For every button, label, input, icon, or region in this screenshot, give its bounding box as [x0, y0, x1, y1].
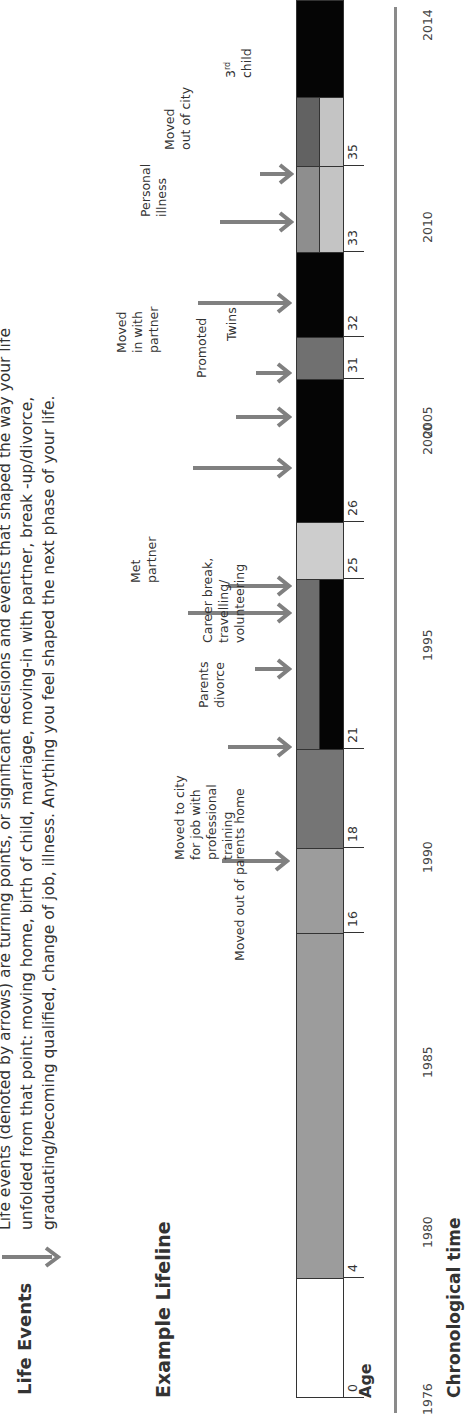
event-label-line: Promoted [194, 318, 210, 378]
event-label-line: out of city [178, 87, 194, 150]
event-arrow-head-icon [278, 163, 294, 185]
intro-text: Life events (denoted by arrows) are turn… [0, 330, 60, 1230]
event-arrow-shaft [193, 466, 286, 470]
lifeline-segment-top [296, 749, 320, 848]
event-label-line: Career break, [200, 558, 216, 643]
time-axis-label: Chronological time [444, 1218, 464, 1398]
age-tick [344, 251, 364, 252]
event-label-line: partner [144, 537, 160, 583]
event-arrow-head-icon [276, 602, 292, 624]
legend-arrow-head-icon [42, 1246, 62, 1268]
event-label-line: for job with [188, 775, 204, 860]
life-events-heading: Life Events [14, 1283, 35, 1395]
time-axis-line [394, 7, 397, 1413]
lifeline-bar [296, 0, 344, 1413]
age-tick [344, 521, 364, 522]
age-tick-label: 18 [345, 826, 360, 842]
year-tick-label: 1980 [420, 1216, 435, 1248]
event-arrow-head-icon [276, 292, 292, 314]
event-label-line: Moved [162, 87, 178, 150]
event-arrow-head-icon [274, 850, 290, 872]
intro-line-2: unfolded from that point: moving home, b… [16, 330, 38, 1230]
event-label: 3rdchild [220, 48, 255, 78]
event-label-line: Parents [196, 661, 212, 708]
event-label-line: partner [146, 307, 162, 353]
age-tick-label: 25 [345, 557, 360, 573]
lifeline-segment-bottom [320, 579, 344, 749]
lifeline-segment-bottom [320, 0, 344, 97]
age-tick-label: 35 [345, 144, 360, 160]
example-lifeline-title: Example Lifeline [152, 1221, 174, 1398]
event-label: Personalillness [138, 164, 170, 217]
event-arrow-head-icon [276, 658, 292, 680]
year-tick-label: 2005 [420, 406, 435, 438]
year-tick-label: 2014 [420, 9, 435, 41]
event-arrow-head-icon [276, 457, 292, 479]
year-tick-label: 1976 [420, 1383, 435, 1415]
event-label-line: training [220, 775, 236, 860]
lifeline-segment-bottom [320, 97, 344, 166]
event-label-line: Personal [138, 164, 154, 217]
year-tick-label: 2010 [420, 211, 435, 243]
age-tick-label: 21 [345, 727, 360, 743]
event-arrow-head-icon [276, 406, 292, 428]
lifeline-segment-top [296, 337, 320, 379]
age-tick [344, 932, 364, 933]
event-label-line: volunteering [232, 558, 248, 643]
lifeline-segment-bottom [320, 848, 344, 933]
event-label-line: travelling/ [216, 558, 232, 643]
event-label-line: professional [204, 775, 220, 860]
age-tick-label: 31 [345, 357, 360, 373]
age-tick-label: 4 [345, 1264, 360, 1272]
age-tick [344, 336, 364, 337]
event-label-line: child [239, 48, 255, 78]
intro-line-3: graduating/becoming qualified, change of… [38, 330, 60, 1230]
event-arrow-shaft [198, 301, 286, 305]
event-label-line: Moved [114, 307, 130, 353]
event-label: Promoted [194, 318, 210, 378]
event-label: Moved to cityfor job withprofessionaltra… [172, 775, 236, 860]
lifeline-segment-top [296, 579, 320, 749]
intro-line-1: Life events (denoted by arrows) are turn… [0, 330, 16, 1230]
year-tick-label: 1990 [420, 841, 435, 873]
lifeline-segment-bottom [320, 933, 344, 1278]
event-label: Career break,travelling/volunteering [200, 558, 248, 643]
event-label-line: divorce [212, 661, 228, 708]
lifeline-segment-bottom [320, 379, 344, 522]
event-arrow-head-icon [276, 575, 292, 597]
age-tick-label: 26 [345, 500, 360, 516]
event-label-line: in with [130, 307, 146, 353]
event-label-line: illness [154, 164, 170, 217]
lifeline-segment-top [296, 848, 320, 933]
event-label: Movedout of city [162, 87, 194, 150]
age-tick [344, 748, 364, 749]
event-label-line: Met [128, 537, 144, 583]
age-tick [344, 847, 364, 848]
lifeline-segment-top [296, 522, 320, 579]
age-tick-label: 33 [345, 230, 360, 246]
lifeline-segment-bottom [320, 749, 344, 848]
lifeline-segment-top [296, 0, 320, 97]
lifeline-segment-top [296, 252, 320, 337]
event-label-line: Twins [224, 307, 240, 341]
age-tick [344, 578, 364, 579]
lifeline-segment-top [296, 933, 320, 1278]
lifeline-segment-top [296, 1278, 320, 1398]
lifeline-segment-bottom [320, 522, 344, 579]
lifeline-segment-bottom [320, 1278, 344, 1398]
year-tick-label: 1985 [420, 1046, 435, 1078]
event-label-line: 3rd [220, 48, 239, 78]
event-arrow-head-icon [276, 736, 292, 758]
lifeline-segment-top [296, 379, 320, 522]
age-tick [344, 1277, 364, 1278]
event-arrow-head-icon [276, 362, 292, 384]
event-label: Parentsdivorce [196, 661, 228, 708]
age-tick [344, 165, 364, 166]
age-tick-label: 32 [345, 315, 360, 331]
year-tick-label: 1995 [420, 629, 435, 661]
age-tick-label: 16 [345, 911, 360, 927]
age-tick [344, 378, 364, 379]
event-label-line: Moved to city [172, 775, 188, 860]
lifeline-segment-bottom [320, 166, 344, 252]
